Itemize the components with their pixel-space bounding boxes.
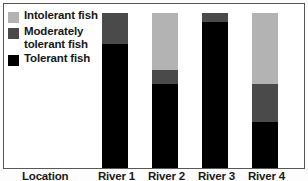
bar-segment-tolerant-fish	[202, 22, 228, 168]
bar-segment-moderately-tolerant-fish	[252, 84, 278, 121]
bar-segment-moderately-tolerant-fish	[152, 70, 178, 84]
legend-swatch-tolerant-icon	[8, 55, 19, 66]
bar-segment-moderately-tolerant-fish	[202, 13, 228, 22]
bar-segment-intolerant-fish	[252, 13, 278, 84]
bar-segment-tolerant-fish	[252, 122, 278, 169]
bar-river-1[interactable]	[102, 13, 128, 168]
bar-segment-intolerant-fish	[152, 13, 178, 70]
x-tick-label-river-1: River 1	[98, 170, 135, 181]
chart-legend: Intolerant fish Moderately tolerant fish…	[8, 9, 100, 68]
bar-river-3[interactable]	[202, 13, 228, 168]
bar-river-2[interactable]	[152, 13, 178, 168]
x-axis-caption: Location	[22, 170, 68, 181]
legend-label-tolerant: Tolerant fish	[24, 52, 90, 65]
x-tick-label-river-4: River 4	[248, 170, 285, 181]
legend-swatch-moderately-tolerant-icon	[8, 28, 19, 39]
x-tick-label-river-2: River 2	[148, 170, 185, 181]
bar-segment-tolerant-fish	[102, 44, 128, 168]
legend-item-moderately-tolerant-fish: Moderately tolerant fish	[8, 25, 100, 50]
bar-river-4[interactable]	[252, 13, 278, 168]
legend-label-moderately-tolerant: Moderately tolerant fish	[24, 25, 98, 50]
x-tick-label-river-3: River 3	[198, 170, 235, 181]
bar-segment-moderately-tolerant-fish	[102, 13, 128, 44]
bar-segment-tolerant-fish	[152, 84, 178, 168]
legend-label-intolerant: Intolerant fish	[24, 9, 98, 22]
x-axis-labels: Location River 1 River 2 River 3 River 4	[0, 170, 308, 181]
legend-item-tolerant-fish: Tolerant fish	[8, 52, 100, 66]
legend-swatch-intolerant-icon	[8, 12, 19, 23]
stacked-bar-chart-figure: Intolerant fish Moderately tolerant fish…	[0, 0, 308, 181]
legend-item-intolerant-fish: Intolerant fish	[8, 9, 100, 23]
